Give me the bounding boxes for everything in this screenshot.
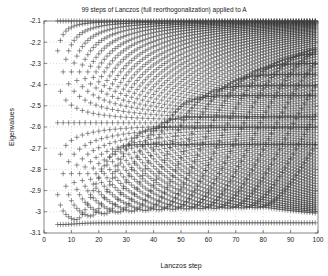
y-axis-tick-labels: -3.1-3-2.9-2.8-2.7-2.6-2.5-2.4-2.3-2.2-2… — [30, 17, 42, 236]
x-tick-label: 100 — [312, 236, 323, 243]
y-tick-label: -2.3 — [30, 60, 42, 67]
x-tick-label: 90 — [287, 236, 295, 243]
x-tick-label: 70 — [232, 236, 240, 243]
x-tick-label: 50 — [177, 236, 185, 243]
eigenvalue-convergence-plot: 0102030405060708090100 -3.1-3-2.9-2.8-2.… — [0, 0, 328, 276]
y-tick-label: -2.5 — [30, 102, 42, 109]
x-tick-label: 10 — [68, 236, 76, 243]
lanczos-eigenvalue-figure: 99 steps of Lanczos (full reorthogonaliz… — [0, 0, 328, 276]
x-tick-label: 40 — [150, 236, 158, 243]
y-tick-label: -2.1 — [30, 17, 42, 24]
y-tick-label: -2.7 — [30, 145, 42, 152]
x-tick-label: 20 — [95, 236, 103, 243]
y-tick-label: -2.8 — [30, 166, 42, 173]
x-tick-label: 80 — [260, 236, 268, 243]
ritz-value-markers — [55, 18, 318, 227]
y-tick-label: -3.1 — [30, 229, 42, 236]
x-tick-label: 60 — [205, 236, 213, 243]
x-tick-label: 30 — [123, 236, 131, 243]
y-tick-label: -3 — [35, 208, 41, 215]
y-tick-label: -2.4 — [30, 81, 42, 88]
y-tick-label: -2.2 — [30, 39, 42, 46]
x-tick-label: 0 — [42, 236, 46, 243]
x-axis-tick-labels: 0102030405060708090100 — [42, 236, 324, 243]
x-axis-label: Lanczos step — [160, 262, 201, 270]
y-tick-label: -2.6 — [30, 123, 42, 130]
y-axis-label: Eigenvalues — [8, 107, 16, 146]
y-tick-label: -2.9 — [30, 187, 42, 194]
